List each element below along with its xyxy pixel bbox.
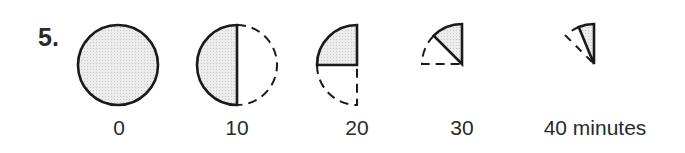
stage-0-full-circle xyxy=(78,25,158,105)
stage-30-eighth-circle xyxy=(422,24,462,64)
time-label-40-minutes: 40 minutes xyxy=(544,116,647,140)
stage-40-sixteenth-circle xyxy=(566,24,594,64)
time-label-0: 0 xyxy=(113,116,125,140)
stage-20-quarter-circle xyxy=(317,25,357,105)
stage-10-half-circle xyxy=(197,25,277,105)
time-label-10: 10 xyxy=(225,116,248,140)
time-label-30: 30 xyxy=(450,116,473,140)
time-label-20: 20 xyxy=(345,116,368,140)
